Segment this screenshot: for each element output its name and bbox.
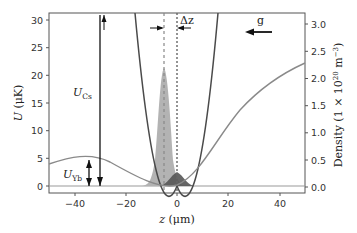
uyb-label: UYb [63,168,82,183]
svg-text:5: 5 [37,153,43,164]
gravity-label: g [257,14,264,27]
svg-text:40: 40 [274,198,286,209]
svg-text:10: 10 [31,125,43,136]
x-axis-label: z (μm) [158,213,194,226]
svg-text:20: 20 [31,70,43,81]
svg-text:1.0: 1.0 [311,127,326,138]
uyb-arrow-head-down-icon [86,178,92,186]
left-y-axis-label: U (μK) [12,85,25,122]
svg-text:30: 30 [31,15,43,26]
svg-text:0.5: 0.5 [311,155,326,166]
svg-text:0.0: 0.0 [311,182,326,193]
left-y-axis: 0 5 10 15 20 25 30 [31,15,49,192]
svg-text:0: 0 [37,181,43,192]
ucs-arrow-head-down-icon [97,177,103,186]
ucs-arrow-head-up-icon [102,15,107,22]
arrow-right-icon [157,26,164,31]
right-y-axis-label: Density (1 × 1020 m−3) [332,43,345,168]
chart: Δz g UCs UYb 0 5 10 15 20 25 30 0.0 0.5 … [0,0,357,233]
right-y-axis: 0.0 0.5 1.0 1.5 2.0 2.5 3.0 [305,19,326,193]
svg-text:2.5: 2.5 [311,46,326,57]
svg-text:2.0: 2.0 [311,73,326,84]
svg-text:3.0: 3.0 [311,19,326,30]
svg-text:0: 0 [174,198,180,209]
svg-text:1.5: 1.5 [311,100,326,111]
cs-potential-curve [135,13,218,196]
x-axis: −40 −20 0 20 40 [65,193,286,209]
gravity-arrow-icon [245,29,254,36]
svg-text:20: 20 [222,198,234,209]
svg-text:−40: −40 [65,198,85,209]
svg-text:25: 25 [31,42,43,53]
delta-z-label: Δz [180,14,194,27]
uyb-arrow-head-up-icon [86,160,92,168]
ucs-label: UCs [73,86,92,101]
svg-text:−20: −20 [116,198,136,209]
svg-text:15: 15 [31,98,43,109]
